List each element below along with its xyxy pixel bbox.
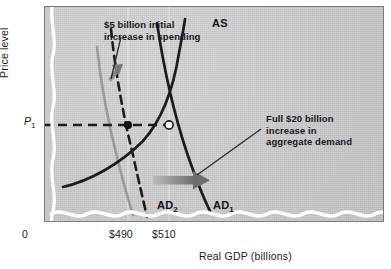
chart-figure: $5 billion initial increase in spending … <box>0 0 391 269</box>
annotation-line: aggregate demand <box>266 136 352 148</box>
x-axis-tick-490: $490 <box>109 228 133 240</box>
small-shift-arrow <box>108 64 123 82</box>
axis-origin-label: 0 <box>22 228 28 240</box>
annotation-line: $5 billion initial <box>104 19 201 31</box>
y-axis-title: Price level <box>0 0 10 78</box>
curve-label-ad1: AD1 <box>213 199 234 214</box>
curve-label-ad2: AD2 <box>157 199 178 214</box>
marker-initial-equilibrium <box>124 121 132 129</box>
initial-spending-annotation: $5 billion initial increase in spending <box>104 19 201 42</box>
large-shift-arrow <box>153 171 210 190</box>
x-axis-title: Real GDP (billions) <box>199 250 292 262</box>
marker-new-equilibrium <box>165 121 173 129</box>
y-axis-tick-p1: P1 <box>24 115 35 130</box>
x-axis-tick-510: $510 <box>152 228 176 240</box>
annotation-line: increase in <box>266 125 352 137</box>
curve-label-as: AS <box>212 17 228 29</box>
leader-line-right-annotation <box>197 129 261 175</box>
full-increase-annotation: Full $20 billion increase in aggregate d… <box>266 113 352 148</box>
annotation-line: Full $20 billion <box>266 113 352 125</box>
plot-area: $5 billion initial increase in spending … <box>44 6 384 222</box>
curve-as <box>63 19 185 187</box>
axis-break-vertical <box>51 6 54 222</box>
annotation-line: increase in spending <box>104 31 201 43</box>
